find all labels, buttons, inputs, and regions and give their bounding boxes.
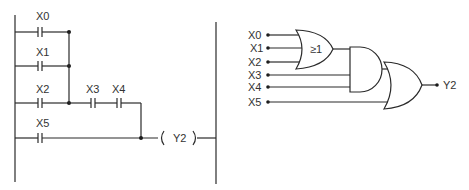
output-dot [435,83,439,87]
input-label-x5: X5 [248,96,261,108]
input-label-x0: X0 [248,29,261,41]
or-gate-symbol: ≥1 [310,43,322,55]
or-gate-1: ≥1 [296,30,350,69]
logic-diagram: X0 X1 X2 X3 X4 X5 ≥1 [248,29,456,109]
and-gate [350,47,389,92]
output-label-y2: Y2 [443,79,456,91]
contact-x1: X1 [15,46,71,71]
ladder-diagram: X0 X1 X2 X3 [15,10,216,184]
contact-x5: X5 [15,117,158,143]
input-label-x1: X1 [250,42,263,54]
input-label-x2: X2 [248,56,261,68]
contact-label: X2 [36,83,49,95]
coil-left-paren [162,131,165,145]
contact-label: X0 [36,10,49,22]
coil-y2: Y2 [162,131,217,145]
contact-x3: X3 [69,83,117,108]
contact-label: X4 [112,83,125,95]
contact-label: X3 [86,83,99,95]
contact-x2: X2 [15,83,71,108]
or-gate-2 [384,62,437,109]
coil-right-paren [193,131,196,145]
diagram-canvas: X0 X1 X2 X3 [0,0,469,190]
contact-x0: X0 [15,10,71,37]
input-label-x4: X4 [248,81,261,93]
contact-x4: X4 [112,83,141,108]
contact-label: X5 [36,117,49,129]
input-label-x3: X3 [248,69,261,81]
junction-dot [139,136,143,140]
coil-label: Y2 [173,132,186,144]
contact-label: X1 [36,46,49,58]
